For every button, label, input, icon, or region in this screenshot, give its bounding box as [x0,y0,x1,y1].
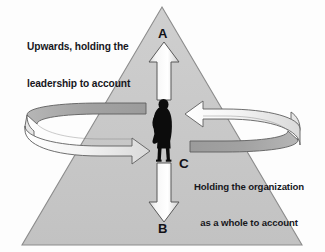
label-holding-org-line2: as a whole to account [194,217,304,229]
marker-letter-a: A [158,26,167,41]
label-upwards-line2: leadership to account [27,78,130,90]
diagram-canvas: Upwards, holding the leadership to accou… [0,0,325,252]
label-holding-org-line1: Holding the organization [194,181,304,193]
label-holding-organization: Holding the organization as a whole to a… [194,158,304,252]
right-circular-band-arrow [185,101,300,152]
marker-letter-c: C [179,156,189,171]
label-upwards-holding-leadership: Upwards, holding the leadership to accou… [27,16,130,116]
marker-letter-b: B [158,221,167,236]
label-upwards-line1: Upwards, holding the [27,41,130,53]
